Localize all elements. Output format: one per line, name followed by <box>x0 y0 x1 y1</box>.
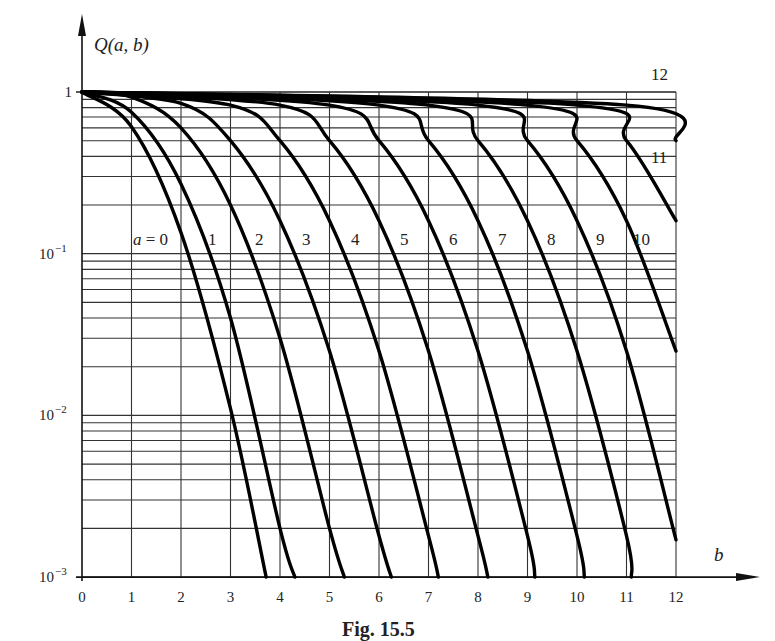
curve-label: 1 <box>208 230 217 249</box>
y-axis-arrow-icon <box>78 14 86 36</box>
y-tick-label: 10 <box>39 246 54 262</box>
svg-text:−3: −3 <box>55 565 67 577</box>
x-tick-label: 11 <box>619 589 633 605</box>
curve-a-6 <box>82 92 535 577</box>
svg-text:−2: −2 <box>55 403 67 415</box>
figure-caption: Fig. 15.5 <box>342 618 415 641</box>
y-tick-label: 10 <box>39 407 54 423</box>
curve-label: 3 <box>302 230 311 249</box>
curve-a-7 <box>82 92 584 577</box>
y-tick-label: 10 <box>39 569 54 585</box>
curve-label: 8 <box>547 230 556 249</box>
curve-label: a = 0 <box>133 230 168 249</box>
curve-label: 4 <box>351 230 360 249</box>
x-axis-title: b <box>714 544 724 566</box>
curve-a-1 <box>82 92 295 577</box>
curves <box>82 92 685 577</box>
curve-label: 9 <box>596 230 605 249</box>
x-tick-label: 9 <box>524 589 532 605</box>
curve-label: 12 <box>651 65 668 84</box>
curve-label: 6 <box>449 230 458 249</box>
x-tick-label: 8 <box>474 589 482 605</box>
x-tick-label: 3 <box>227 589 235 605</box>
x-tick-label: 12 <box>669 589 684 605</box>
x-tick-label: 5 <box>326 589 334 605</box>
x-tick-label: 2 <box>177 589 185 605</box>
x-axis-arrow-icon <box>736 573 760 581</box>
curve-a-5 <box>82 92 488 577</box>
curve-label: 11 <box>651 148 667 167</box>
curve-label: 2 <box>255 230 264 249</box>
curve-a-0 <box>82 92 266 577</box>
grid <box>76 92 676 577</box>
x-tick-label: 1 <box>128 589 136 605</box>
y-axis-title: Q(a, b) <box>94 34 149 56</box>
curve-label: 10 <box>633 230 650 249</box>
labels: 0123456789101112110−110−210−3a = 0123456… <box>39 65 684 605</box>
x-tick-label: 0 <box>78 589 86 605</box>
y-tick-label: 1 <box>65 84 73 100</box>
curve-a-8 <box>82 92 632 577</box>
svg-text:−1: −1 <box>55 242 67 254</box>
x-tick-label: 10 <box>570 589 585 605</box>
curve-a-4 <box>82 92 438 577</box>
curve-label: 5 <box>400 230 409 249</box>
x-tick-label: 4 <box>276 589 284 605</box>
x-tick-label: 6 <box>375 589 383 605</box>
x-tick-label: 7 <box>425 589 433 605</box>
curve-label: 7 <box>498 230 507 249</box>
